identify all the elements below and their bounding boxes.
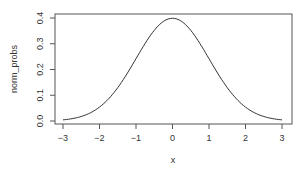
x-tick-label: 3 — [279, 133, 284, 143]
x-tick-label: −1 — [131, 133, 141, 143]
x-axis: −3−2−10123 — [58, 124, 285, 143]
plot-box — [55, 14, 292, 124]
x-axis-title: x — [171, 155, 176, 165]
y-tick-label: 0.4 — [35, 12, 45, 25]
y-axis: 0.00.10.20.30.4 — [35, 12, 55, 128]
x-tick-label: −2 — [94, 133, 104, 143]
x-tick-label: −3 — [58, 133, 68, 143]
y-tick-label: 0.3 — [35, 37, 45, 50]
y-tick-label: 0.0 — [35, 115, 45, 128]
x-tick-label: 2 — [243, 133, 248, 143]
y-axis-title: norm_probs — [9, 44, 19, 93]
x-tick-label: 0 — [170, 133, 175, 143]
y-tick-label: 0.2 — [35, 63, 45, 76]
line-chart: −3−2−10123 0.00.10.20.30.4 x norm_probs — [0, 0, 308, 177]
y-tick-label: 0.1 — [35, 89, 45, 102]
x-tick-label: 1 — [206, 133, 211, 143]
density-curve — [63, 18, 282, 120]
